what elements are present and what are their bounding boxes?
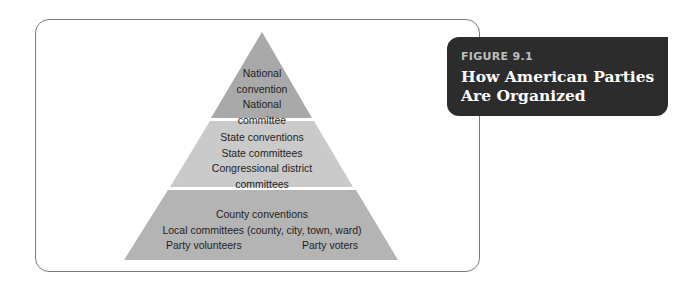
figure-number: FIGURE 9.1 — [461, 50, 668, 64]
tier-state-line: State conventions — [182, 130, 342, 146]
figure-title-line: Are Organized — [461, 86, 668, 105]
tier-national-line: National — [212, 66, 312, 82]
tier-local-line: Local committees (county, city, town, wa… — [150, 223, 374, 239]
tier-national-line: National — [212, 97, 312, 113]
tier-local-bottom-row: Party volunteers Party voters — [150, 238, 374, 254]
tier-national-label: National convention National committee — [212, 66, 312, 128]
figure-caption-box: FIGURE 9.1 How American Parties Are Orga… — [447, 37, 668, 116]
tier-state-line: Congressional district — [182, 161, 342, 177]
tier-local-line: County conventions — [150, 207, 374, 223]
tier-state-label: State conventions State committees Congr… — [182, 130, 342, 192]
figure-title: How American Parties Are Organized — [461, 67, 668, 105]
figure-title-line: How American Parties — [461, 67, 668, 86]
party-volunteers-label: Party volunteers — [166, 238, 242, 254]
party-voters-label: Party voters — [302, 238, 358, 254]
tier-local-label: County conventions Local committees (cou… — [150, 207, 374, 254]
tier-national-line: convention — [212, 82, 312, 98]
tier-state-line: State committees — [182, 146, 342, 162]
tier-state-line: committees — [182, 177, 342, 193]
tier-national-line: committee — [212, 113, 312, 129]
